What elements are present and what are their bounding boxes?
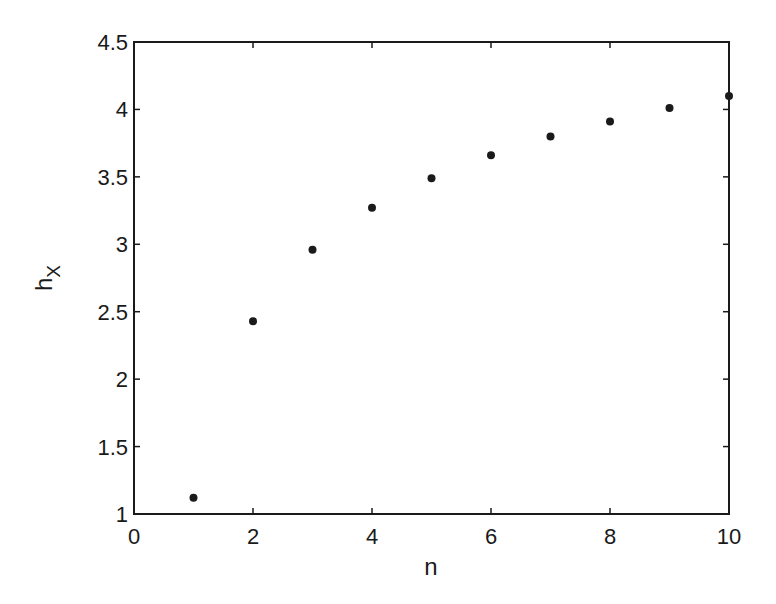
y-tick-label: 3 <box>116 232 128 257</box>
data-point <box>249 317 257 325</box>
data-point <box>309 246 317 254</box>
x-tick-label: 2 <box>247 524 259 549</box>
scatter-chart: 024681011.522.533.544.5 n hX <box>0 0 776 604</box>
x-tick-label: 8 <box>604 524 616 549</box>
data-point <box>487 151 495 159</box>
x-tick-label: 0 <box>128 524 140 549</box>
y-tick-label: 2 <box>116 367 128 392</box>
y-tick-label: 2.5 <box>97 300 128 325</box>
y-axis-label-main: h <box>30 278 57 291</box>
y-tick-label: 1 <box>116 502 128 527</box>
svg-text:hX: hX <box>30 265 64 291</box>
y-tick-label: 4 <box>116 97 128 122</box>
y-tick-label: 4.5 <box>97 30 128 55</box>
axis-ticks: 024681011.522.533.544.5 <box>97 30 741 549</box>
x-tick-label: 4 <box>366 524 378 549</box>
data-point <box>368 204 376 212</box>
y-axis-label-subscript: X <box>43 265 64 278</box>
data-point <box>547 132 555 140</box>
y-axis-label: hX <box>30 265 64 291</box>
y-tick-label: 1.5 <box>97 435 128 460</box>
y-tick-label: 3.5 <box>97 165 128 190</box>
data-point <box>190 494 198 502</box>
x-tick-label: 10 <box>717 524 741 549</box>
plot-frame <box>134 42 729 514</box>
data-point <box>606 118 614 126</box>
data-point <box>666 104 674 112</box>
x-axis-label: n <box>424 553 437 580</box>
x-tick-label: 6 <box>485 524 497 549</box>
data-point <box>428 174 436 182</box>
data-points <box>190 92 734 502</box>
